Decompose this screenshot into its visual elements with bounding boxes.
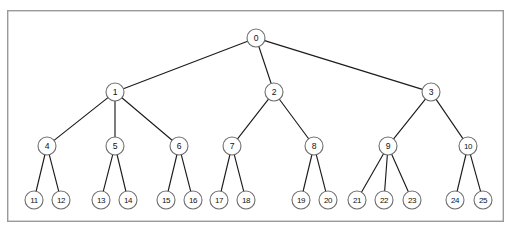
tree-node-8[interactable]: 8 — [305, 137, 323, 155]
tree-node-9[interactable]: 9 — [379, 137, 397, 155]
tree-node-1[interactable]: 1 — [106, 83, 124, 101]
tree-node-label-12: 12 — [57, 196, 66, 205]
tree-node-23[interactable]: 23 — [403, 191, 421, 209]
tree-node-12[interactable]: 12 — [52, 191, 70, 209]
tree-node-label-23: 23 — [408, 196, 417, 205]
tree-node-7[interactable]: 7 — [223, 137, 241, 155]
tree-diagram-figure: 0123456789101112131415161718192021222324… — [0, 0, 515, 233]
tree-diagram-canvas: 0123456789101112131415161718192021222324… — [0, 0, 515, 233]
tree-node-0[interactable]: 0 — [247, 29, 265, 47]
tree-node-25[interactable]: 25 — [474, 191, 492, 209]
tree-node-label-4: 4 — [45, 141, 50, 151]
tree-node-11[interactable]: 11 — [25, 191, 43, 209]
tree-node-label-19: 19 — [297, 196, 306, 205]
tree-node-6[interactable]: 6 — [170, 137, 188, 155]
tree-node-label-13: 13 — [97, 196, 106, 205]
tree-node-21[interactable]: 21 — [348, 191, 366, 209]
tree-node-13[interactable]: 13 — [92, 191, 110, 209]
tree-node-label-16: 16 — [189, 196, 198, 205]
tree-node-20[interactable]: 20 — [319, 191, 337, 209]
tree-node-19[interactable]: 19 — [292, 191, 310, 209]
tree-node-5[interactable]: 5 — [106, 137, 124, 155]
tree-node-24[interactable]: 24 — [446, 191, 464, 209]
tree-node-2[interactable]: 2 — [265, 83, 283, 101]
tree-node-15[interactable]: 15 — [157, 191, 175, 209]
tree-node-label-11: 11 — [30, 196, 38, 205]
tree-node-label-9: 9 — [386, 141, 391, 151]
tree-node-label-17: 17 — [215, 196, 224, 205]
tree-node-22[interactable]: 22 — [375, 191, 393, 209]
tree-node-label-5: 5 — [113, 141, 118, 151]
tree-node-3[interactable]: 3 — [422, 83, 440, 101]
tree-node-label-6: 6 — [177, 141, 182, 151]
tree-node-label-1: 1 — [113, 87, 118, 97]
tree-node-18[interactable]: 18 — [237, 191, 255, 209]
tree-node-4[interactable]: 4 — [38, 137, 56, 155]
tree-node-label-3: 3 — [429, 87, 434, 97]
tree-node-16[interactable]: 16 — [184, 191, 202, 209]
tree-node-label-21: 21 — [353, 196, 362, 205]
tree-node-label-2: 2 — [272, 87, 277, 97]
tree-node-14[interactable]: 14 — [119, 191, 137, 209]
tree-node-label-20: 20 — [324, 196, 333, 205]
tree-node-label-7: 7 — [230, 141, 235, 151]
tree-node-17[interactable]: 17 — [210, 191, 228, 209]
tree-node-label-18: 18 — [242, 196, 251, 205]
tree-node-10[interactable]: 10 — [459, 137, 477, 155]
tree-node-label-0: 0 — [254, 33, 259, 43]
tree-node-label-24: 24 — [451, 196, 460, 205]
tree-node-label-22: 22 — [380, 196, 389, 205]
tree-node-label-15: 15 — [162, 196, 171, 205]
tree-node-label-14: 14 — [124, 196, 133, 205]
tree-node-label-8: 8 — [312, 141, 317, 151]
tree-node-label-25: 25 — [479, 196, 488, 205]
tree-node-label-10: 10 — [464, 142, 473, 151]
